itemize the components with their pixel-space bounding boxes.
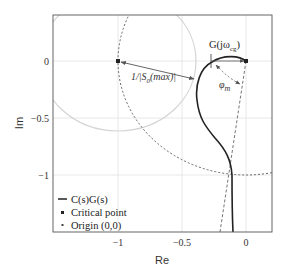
legend: C(s)G(s) Critical point Origin (0,0)	[58, 194, 127, 232]
nyquist-chart: G(jωcg) 1/|S0(max)| φm −1 −0.5 0 0 −0.5 …	[0, 0, 286, 274]
x-tick-neg1: −1	[113, 237, 124, 248]
origin-marker	[244, 59, 248, 63]
legend-label-curve: C(s)G(s)	[71, 194, 108, 206]
y-tick-neg05: −0.5	[31, 113, 49, 124]
x-axis-label: Re	[155, 254, 169, 266]
legend-square-icon	[61, 211, 64, 214]
x-tick-0: 0	[244, 237, 249, 248]
y-axis-label: Im	[13, 117, 25, 129]
sensitivity-label: 1/|S0(max)|	[131, 71, 176, 85]
legend-small-square-icon	[62, 224, 64, 226]
unit-circle	[118, 0, 286, 175]
legend-label-origin: Origin (0,0)	[71, 220, 122, 232]
critical-point-marker	[116, 59, 120, 63]
phase-margin-label: φm	[219, 79, 231, 93]
y-tick-neg1: −1	[38, 170, 49, 181]
y-tick-0: 0	[44, 56, 49, 67]
legend-label-critical: Critical point	[71, 207, 127, 218]
crossover-label: G(jωcg)	[209, 39, 241, 53]
x-tick-neg05: −0.5	[173, 237, 191, 248]
